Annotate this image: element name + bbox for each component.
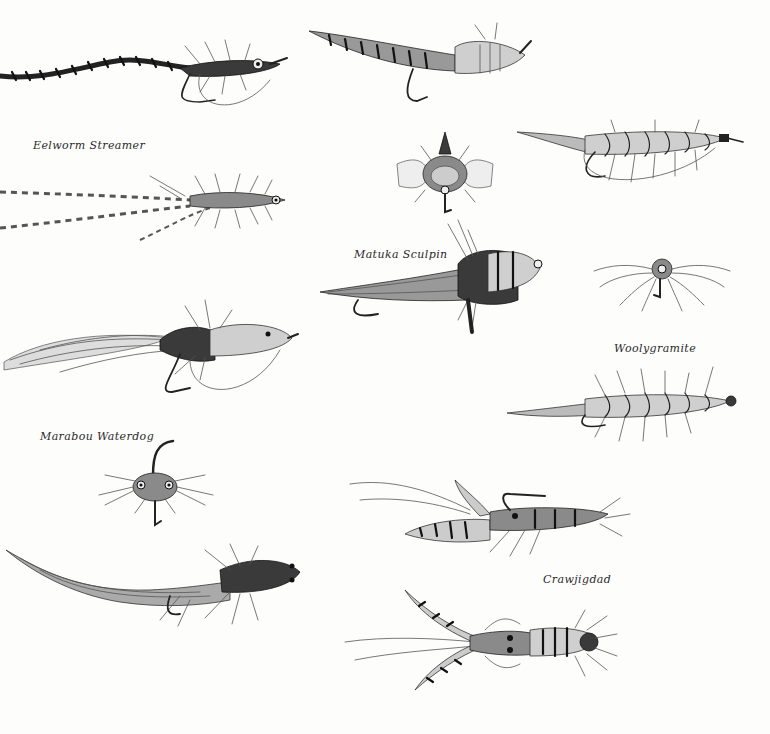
marabou-waterdog-side-illustration: [0, 290, 300, 400]
woolygramite-front-illustration: [590, 245, 735, 315]
woolygramite-top-illustration: [505, 365, 745, 445]
marabou-waterdog-front-illustration: [95, 435, 215, 535]
matuka-sculpin-side-illustration: [305, 25, 550, 115]
fly-pattern-plate: Eelworm Streamer Matuka Sculpin Woolygra…: [0, 0, 770, 734]
eelworm-streamer-top-illustration: [0, 170, 300, 250]
marabou-waterdog-top-illustration: [0, 540, 310, 640]
crawjigdad-top-illustration: [345, 580, 620, 700]
caption-eelworm-streamer: Eelworm Streamer: [33, 139, 145, 152]
crawjigdad-side-illustration: [350, 470, 640, 565]
eelworm-streamer-side-illustration: [0, 40, 300, 120]
woolygramite-side-illustration: [515, 120, 750, 195]
matuka-sculpin-top-illustration: [318, 220, 550, 335]
matuka-sculpin-front-illustration: [395, 130, 495, 225]
caption-woolygramite: Woolygramite: [614, 342, 696, 355]
